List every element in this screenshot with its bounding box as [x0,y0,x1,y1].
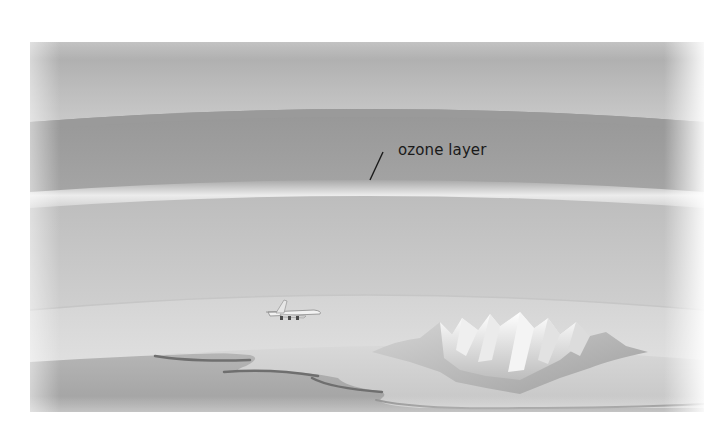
middle-atmosphere-layer [30,196,704,310]
atmosphere-diagram: ozone layer [0,0,704,438]
atmosphere-illustration [0,0,704,438]
ozone-layer-label: ozone layer [398,141,486,159]
